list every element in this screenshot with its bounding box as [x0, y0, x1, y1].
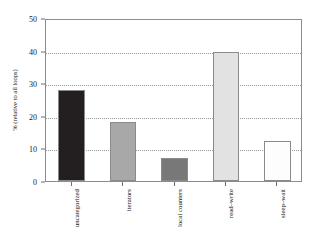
x-tick-label: uncategorized — [73, 189, 80, 227]
y-tick-label: 0 — [33, 178, 37, 187]
x-axis: uncategorizediteratorslocal countersread… — [45, 182, 302, 241]
x-tick-mark — [276, 182, 277, 186]
x-tick-mark — [71, 182, 72, 186]
y-axis: 01020304050 — [0, 19, 45, 182]
x-tick-label: local counters — [176, 189, 183, 227]
bar-chart-figure: 01020304050 % (relative to all loops) un… — [0, 0, 320, 241]
x-tick-label: sleep–wait — [279, 189, 286, 218]
y-tick-label: 40 — [29, 47, 37, 56]
x-tick-mark — [225, 182, 226, 186]
y-tick-label: 10 — [29, 145, 37, 154]
bar — [213, 52, 240, 181]
bar — [264, 141, 291, 181]
x-tick-mark — [122, 182, 123, 186]
y-axis-title: % (relative to all loops) — [11, 69, 18, 130]
y-tick-label: 30 — [29, 80, 37, 89]
y-tick-label: 50 — [29, 15, 37, 24]
x-tick-label: read–write — [227, 189, 234, 218]
bar — [110, 122, 137, 181]
bar — [58, 90, 85, 181]
y-tick-label: 20 — [29, 112, 37, 121]
bar-series — [46, 20, 301, 181]
x-tick-label: iterators — [125, 189, 132, 211]
x-tick-mark — [174, 182, 175, 186]
bar — [161, 158, 188, 181]
plot-area — [45, 19, 302, 182]
